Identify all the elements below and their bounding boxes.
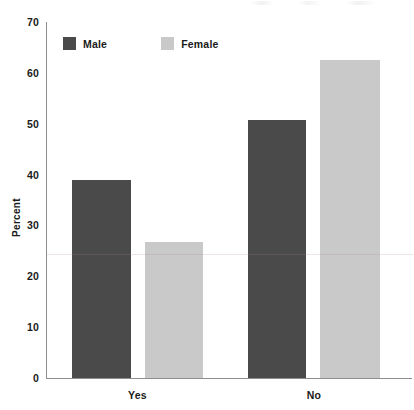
legend-swatch-icon [63, 37, 76, 50]
legend-item-female[interactable]: Female [161, 37, 218, 50]
bar-male-yes [72, 180, 131, 378]
legend-item-male[interactable]: Male [63, 37, 107, 50]
x-axis-label-yes: Yes [72, 389, 203, 401]
legend-label: Female [181, 38, 218, 50]
legend-swatch-icon [161, 37, 174, 50]
plot-area [0, 0, 414, 410]
bar-female-no [320, 60, 380, 378]
bar-male-no [248, 120, 306, 378]
bar-female-yes [145, 242, 203, 378]
legend: MaleFemale [63, 37, 219, 50]
x-axis-label-no: No [248, 389, 380, 401]
legend-label: Male [83, 38, 107, 50]
bar-chart: Percent 706050403020100 YesNo MaleFemale [0, 0, 414, 410]
